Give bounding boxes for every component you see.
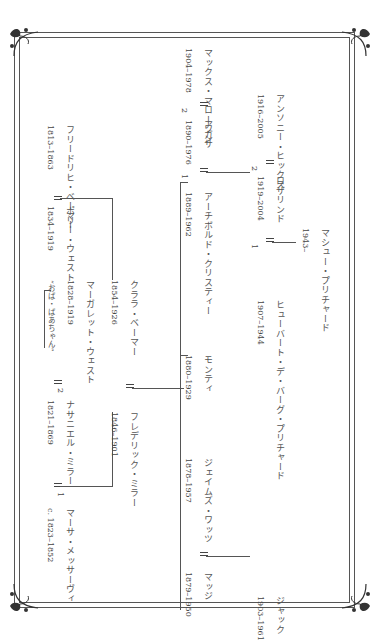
connector-line [44,290,51,291]
fleuron-corner-icon-top-right [340,22,376,58]
name-margaret: マーガレット・ウェスト [85,280,95,385]
name-clara: クララ・ベーマー [129,280,139,356]
years-clara: 1854–1926 [110,280,119,325]
fleuron-corner-icon-top-left [4,22,40,58]
years-friedrich: 1813–1863 [46,125,55,170]
connector-line [60,198,112,199]
connector-line [44,290,45,348]
marriage-order-2: 2 [56,388,64,393]
name-hubert: ヒューバート・デ・バーグ・プリチャード [275,300,285,481]
person-james: ジェイムズ・ワッツ 1878–1957 [178,458,218,544]
name-frederick: フレデリック・ミラー [129,412,139,507]
name-james: ジェイムズ・ワッツ [203,458,213,544]
fleuron-corner-icon-bottom-left [4,582,40,618]
person-madge: マッジ 1879–1950 [178,572,218,617]
name-martha: マーサ・メッサーヴィ [65,508,75,603]
years-madge: 1879–1950 [184,572,193,617]
connector-line [272,242,296,243]
name-mathew: マシュー・プリチャード [320,228,330,333]
person-hubert: ヒューバート・デ・バーグ・プリチャード 1907–1944 [250,300,290,481]
person-anthony: アンソニー・ヒックス 1916–2005 [250,94,290,189]
person-nathaniel: ナサニエル・ミラー 1821–1869 [40,400,80,486]
person-margaret: マーガレット・ウェスト 1828–1919 “おば・ばあちゃん” [40,280,100,385]
years-frederick: 1846–1901 [110,412,119,457]
years-hubert: 1907–1944 [256,300,265,345]
years-margaret: 1828–1919 [66,280,75,325]
connector-line [206,556,250,557]
years-max: 1904–1978 [184,48,193,93]
name-anthony: アンソニー・ヒックス [275,94,285,189]
years-james: 1878–1957 [184,458,193,503]
name-max: マックス・マローワン [203,48,213,143]
person-frederick: フレデリック・ミラー 1846–1901 [104,412,144,507]
person-mathew: マシュー・プリチャード 1943– [295,228,335,333]
name-madge: マッジ [203,572,213,601]
person-max: マックス・マローワン 1904–1978 [178,48,218,143]
connector-line [206,172,250,173]
years-mathew: 1943– [301,228,310,252]
connector-line [112,198,113,280]
years-anthony: 1916–2005 [256,94,265,139]
name-nathaniel: ナサニエル・ミラー [65,400,75,486]
years-nathaniel: 1821–1869 [46,400,55,445]
years-jack: 1903–1961 [256,596,265,641]
name-friedrich: フリードリヒ・ベーマー [65,125,75,230]
person-clara: クララ・ベーマー 1854–1926 [104,280,144,356]
person-archibald: アーチボルド・クリスティー 1889–1962 [178,192,218,316]
connector-line [180,182,188,183]
fleuron-corner-icon-bottom-right [340,582,376,618]
person-friedrich: フリードリヒ・ベーマー 1813–1863 [40,125,80,230]
years-archibald: 1889–1962 [184,192,193,237]
name-archibald: アーチボルド・クリスティー [203,192,213,316]
person-martha: マーサ・メッサーヴィ c. 1823–1852 [40,508,80,603]
person-jack: ジャック 1903–1961 [250,596,290,641]
name-monty: モンティ [203,355,213,393]
years-martha: c. 1823–1852 [46,508,55,562]
connector-line [132,388,184,389]
marriage-order-1: 1 [56,492,64,497]
years-monty: 1880–1929 [184,355,193,400]
marriage-order-1: 1 [250,244,258,249]
marriage-order-1: 1 [180,174,188,179]
person-monty: モンティ 1880–1929 [178,355,218,400]
name-jack: ジャック [275,596,285,634]
